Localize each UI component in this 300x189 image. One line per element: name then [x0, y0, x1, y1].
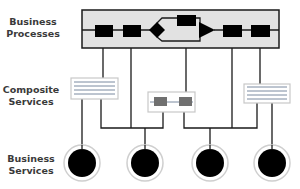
composite-service-left — [71, 78, 118, 99]
composite-service-right — [244, 84, 290, 103]
business-service-2 — [127, 145, 163, 181]
composite-service-middle — [148, 92, 195, 112]
business-service-3 — [192, 145, 228, 181]
process-step-1-icon — [95, 25, 113, 37]
business-process-container — [82, 10, 279, 48]
process-step-2-icon — [123, 25, 141, 37]
circle-stubs — [82, 145, 272, 150]
process-step-top-icon — [177, 15, 196, 26]
service-block-1-icon — [154, 97, 167, 106]
service-circle-icon — [131, 149, 159, 177]
business-service-1 — [64, 145, 100, 181]
service-circle-icon — [196, 149, 224, 177]
service-block-2-icon — [179, 97, 192, 106]
soa-diagram — [0, 0, 300, 189]
service-circle-icon — [258, 149, 286, 177]
business-service-4 — [254, 145, 290, 181]
process-step-4-icon — [251, 25, 270, 37]
process-step-3-icon — [223, 25, 242, 37]
service-circle-icon — [68, 149, 96, 177]
